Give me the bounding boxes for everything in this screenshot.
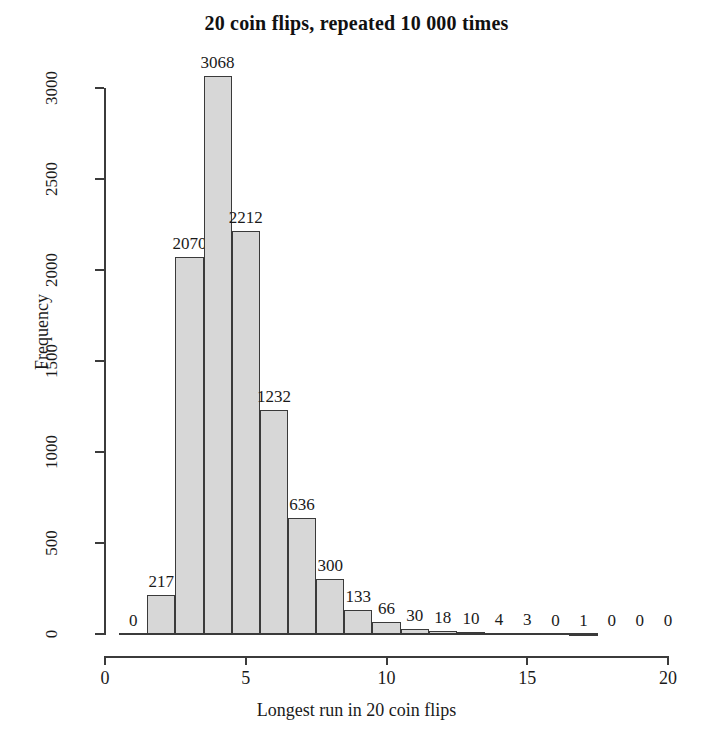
x-tick-label: 5 — [221, 668, 271, 689]
y-tick-label: 2000 — [22, 260, 82, 280]
x-tick-label: 10 — [362, 668, 412, 689]
y-tick-label-text: 500 — [42, 513, 62, 573]
bar-value-label: 3068 — [183, 53, 253, 73]
y-tick-mark — [95, 178, 104, 180]
x-tick-label: 0 — [80, 668, 130, 689]
y-tick-label-text: 3000 — [42, 58, 62, 118]
chart-title: 20 coin flips, repeated 10 000 times — [0, 12, 713, 35]
y-tick-mark — [95, 633, 104, 635]
y-tick-label: 0 — [22, 624, 82, 644]
y-tick-label-text: 2500 — [42, 149, 62, 209]
y-tick-label-text: 2000 — [42, 240, 62, 300]
histogram-bar — [513, 633, 541, 635]
histogram-bar — [147, 595, 175, 634]
bar-value-label: 2212 — [211, 208, 281, 228]
x-axis-title: Longest run in 20 coin flips — [0, 700, 713, 721]
bar-value-label: 300 — [295, 556, 365, 576]
histogram-bar — [204, 76, 232, 634]
y-tick-mark — [95, 542, 104, 544]
y-tick-label: 2500 — [22, 169, 82, 189]
y-tick-label: 1500 — [22, 351, 82, 371]
y-axis-line — [104, 88, 106, 635]
x-tick-label: 15 — [502, 668, 552, 689]
histogram-bar — [485, 633, 513, 635]
x-tick-mark — [667, 656, 669, 665]
y-tick-mark — [95, 87, 104, 89]
x-tick-mark — [526, 656, 528, 665]
histogram-bar — [232, 231, 260, 634]
y-tick-label-text: 0 — [42, 604, 62, 664]
y-tick-label: 1000 — [22, 442, 82, 462]
bar-value-label: 636 — [267, 495, 337, 515]
bar-value-label: 0 — [633, 611, 703, 631]
x-tick-mark — [104, 656, 106, 665]
bar-value-label: 1232 — [239, 387, 309, 407]
y-tick-label: 3000 — [22, 78, 82, 98]
histogram-bar — [260, 410, 288, 634]
histogram-bar — [401, 629, 429, 634]
x-tick-mark — [245, 656, 247, 665]
y-tick-label-text: 1500 — [42, 331, 62, 391]
y-tick-mark — [95, 451, 104, 453]
histogram-bar — [175, 257, 203, 634]
y-tick-label: 500 — [22, 533, 82, 553]
x-tick-mark — [386, 656, 388, 665]
y-tick-mark — [95, 269, 104, 271]
histogram-bar — [429, 631, 457, 634]
y-tick-label-text: 1000 — [42, 422, 62, 482]
histogram-bar — [569, 634, 597, 636]
histogram-bar — [457, 632, 485, 634]
histogram-figure: 20 coin flips, repeated 10 000 times Fre… — [0, 0, 713, 748]
x-tick-label: 20 — [643, 668, 693, 689]
y-tick-mark — [95, 360, 104, 362]
